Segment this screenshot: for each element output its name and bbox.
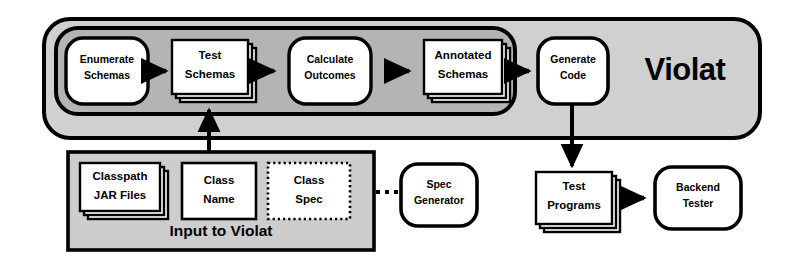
violat-brand-label: Violat [645, 52, 726, 87]
test-schemas-label-line1: Test [199, 49, 222, 61]
backend-tester-label-line2: Tester [683, 197, 714, 209]
class-name-label-line1: Class [204, 174, 235, 186]
node-spec-generator[interactable]: Spec Generator [401, 164, 477, 226]
test-programs-label-line1: Test [563, 180, 586, 192]
class-name-label-line2: Name [203, 193, 234, 205]
node-classpath-jar-files[interactable]: Classpath JAR Files [80, 163, 168, 219]
classpath-jar-files-label-line2: JAR Files [94, 189, 146, 201]
test-programs-label-line2: Programs [547, 199, 601, 211]
generate-code-label-line2: Code [560, 69, 586, 81]
node-generate-code[interactable]: Generate Code [538, 38, 608, 104]
calculate-outcomes-label-line1: Calculate [307, 53, 354, 65]
class-spec-label-line1: Class [294, 174, 325, 186]
node-test-schemas[interactable]: Test Schemas [172, 40, 256, 102]
annotated-schemas-label-line1: Annotated [435, 49, 492, 61]
backend-tester-label-line1: Backend [676, 181, 720, 193]
input-to-violat-label: Input to Violat [169, 222, 272, 239]
calculate-outcomes-label-line2: Outcomes [304, 69, 356, 81]
class-spec-shape [268, 163, 350, 219]
classpath-jar-files-label-line1: Classpath [93, 170, 148, 182]
generate-code-label-line1: Generate [550, 53, 596, 65]
node-annotated-schemas[interactable]: Annotated Schemas [424, 40, 510, 102]
node-class-spec[interactable]: Class Spec [268, 163, 350, 219]
class-name-shape [182, 163, 256, 219]
class-spec-label-line2: Spec [295, 193, 323, 205]
node-calculate-outcomes[interactable]: Calculate Outcomes [289, 38, 371, 104]
test-schemas-label-line2: Schemas [185, 68, 236, 80]
spec-generator-label-line2: Generator [414, 194, 464, 206]
node-enumerate-schemas[interactable]: Enumerate Schemas [66, 38, 148, 104]
annotated-schemas-label-line2: Schemas [438, 68, 489, 80]
node-class-name[interactable]: Class Name [182, 163, 256, 219]
node-test-programs[interactable]: Test Programs [536, 172, 620, 232]
node-backend-tester[interactable]: Backend Tester [655, 167, 741, 229]
enumerate-schemas-label-line2: Schemas [84, 69, 130, 81]
enumerate-schemas-label-line1: Enumerate [80, 53, 134, 65]
spec-generator-label-line1: Spec [426, 178, 451, 190]
violat-architecture-diagram: Enumerate Schemas Test Schemas Calculate… [0, 0, 789, 263]
